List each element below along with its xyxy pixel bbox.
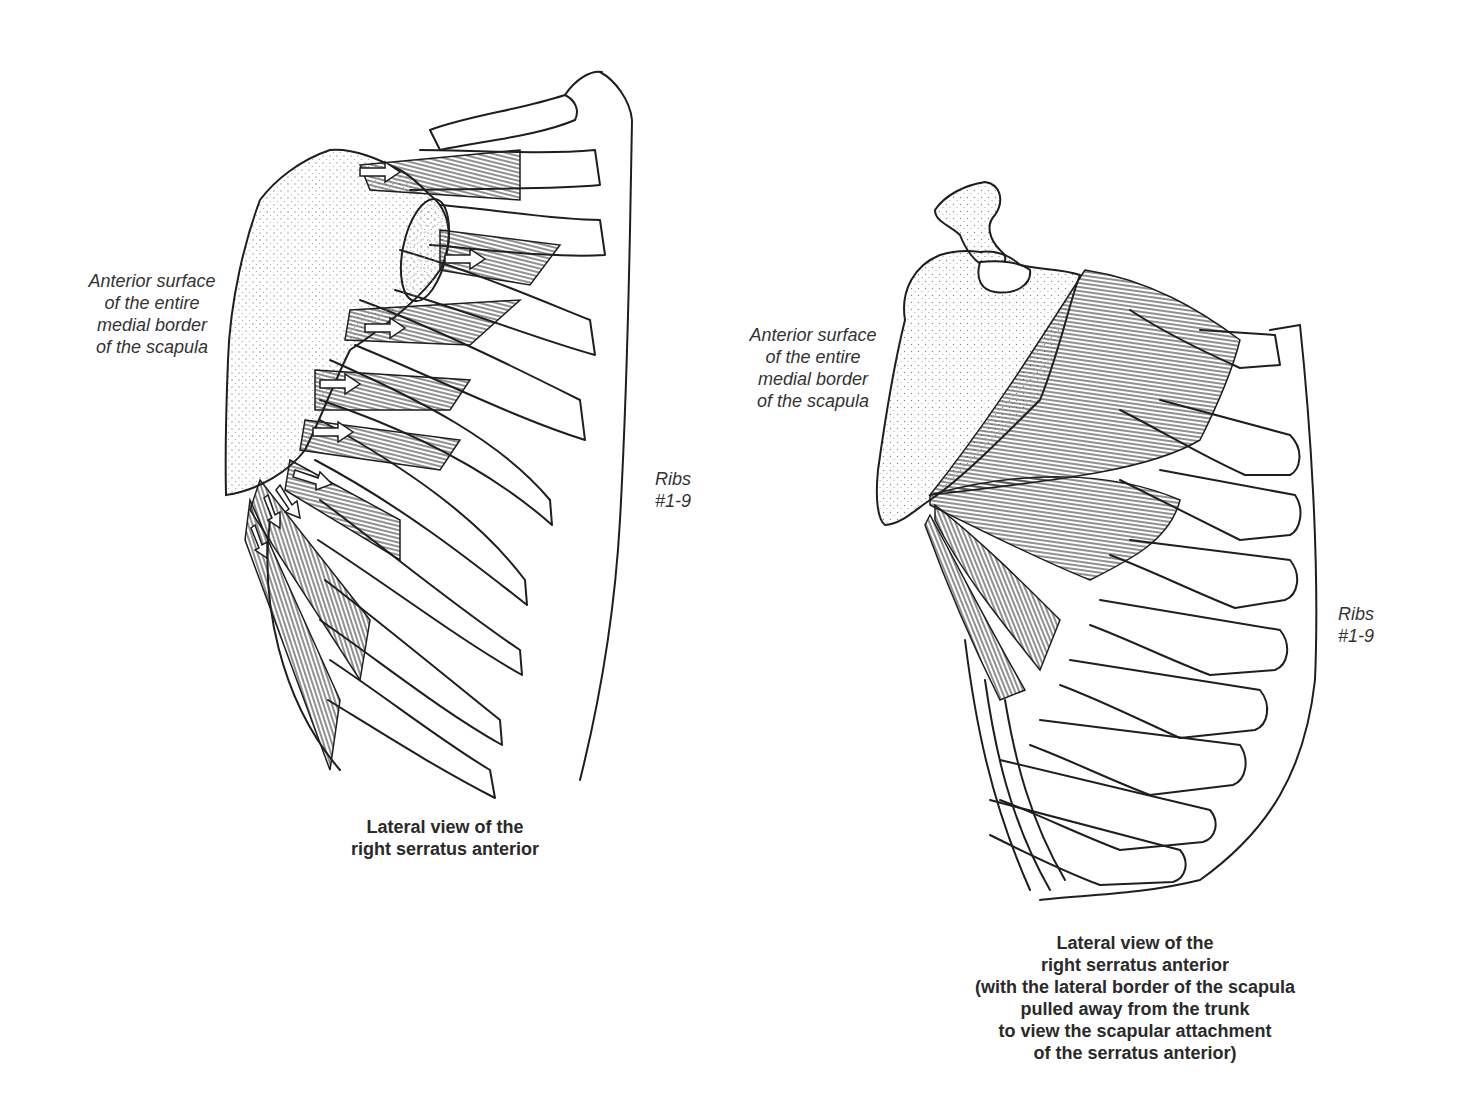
caption-line: to view the scapular attachment — [960, 1020, 1310, 1042]
caption-line: of the serratus anterior) — [960, 1042, 1310, 1064]
label-line: Anterior surface — [728, 324, 898, 346]
caption-line: right serratus anterior — [960, 954, 1310, 976]
right-figure — [0, 0, 1464, 920]
caption-line: pulled away from the trunk — [960, 998, 1310, 1020]
label-line: of the scapula — [728, 390, 898, 412]
caption-line: (with the lateral border of the scapula — [960, 976, 1310, 998]
right-ribcage-illustration — [0, 0, 1464, 920]
right-scapula-label: Anterior surface of the entire medial bo… — [728, 324, 898, 412]
label-line: of the entire — [728, 346, 898, 368]
right-caption: Lateral view of the right serratus anter… — [960, 932, 1310, 1064]
right-ribs-label: Ribs #1-9 — [1338, 603, 1374, 647]
caption-line: Lateral view of the — [960, 932, 1310, 954]
ribs-label-line: Ribs — [1338, 603, 1374, 625]
ribs-label-line: #1-9 — [1338, 625, 1374, 647]
label-line: medial border — [728, 368, 898, 390]
